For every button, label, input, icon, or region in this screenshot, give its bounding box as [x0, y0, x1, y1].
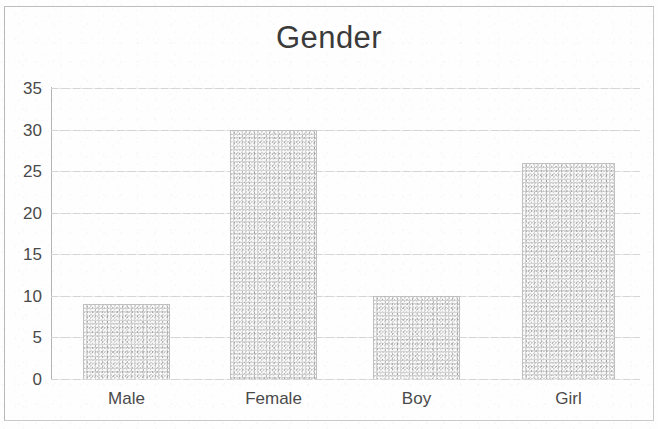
x-axis-category-label: Boy: [402, 390, 431, 407]
x-axis-category-label: Female: [245, 390, 302, 407]
x-axis-category-label: Male: [108, 390, 145, 407]
x-axis-category-labels: MaleFemaleBoyGirl: [0, 0, 658, 429]
chart-image: Gender 05101520253035 MaleFemaleBoyGirl: [0, 0, 658, 429]
x-axis-category-label: Girl: [555, 390, 581, 407]
